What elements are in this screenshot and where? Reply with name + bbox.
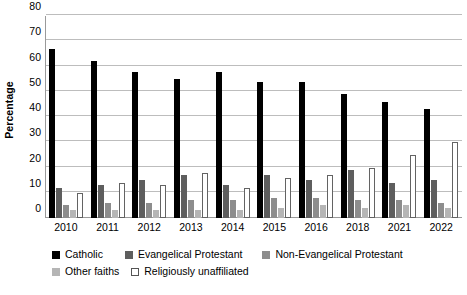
legend-label: Evangelical Protestant [138, 249, 242, 260]
y-axis-tick-label: 10 [3, 178, 41, 188]
bar[interactable] [230, 200, 236, 218]
bar[interactable] [244, 188, 250, 218]
bar[interactable] [341, 94, 347, 218]
legend-item[interactable]: Other faiths [52, 266, 119, 277]
legend-item[interactable]: Religiously unaffiliated [131, 266, 248, 277]
bar-group [128, 16, 170, 218]
legend-label: Religiously unaffiliated [144, 266, 248, 277]
x-axis-tick-label: 2016 [295, 220, 337, 236]
bar[interactable] [306, 180, 312, 218]
x-axis-tick-label: 2010 [45, 220, 87, 236]
y-axis-tick-label: 80 [3, 1, 41, 11]
bar-group [170, 16, 212, 218]
bars-layer [45, 16, 462, 218]
bar[interactable] [63, 205, 69, 218]
bar[interactable] [195, 210, 201, 218]
y-axis-tick-label: 40 [3, 102, 41, 112]
bar[interactable] [313, 198, 319, 218]
legend-label: Non-Evangelical Protestant [275, 249, 402, 260]
bar[interactable] [403, 205, 409, 218]
y-axis-tick-label: 60 [3, 52, 41, 62]
bar[interactable] [237, 210, 243, 218]
bar[interactable] [355, 200, 361, 218]
bar[interactable] [105, 203, 111, 218]
bar-group [45, 16, 87, 218]
legend-item[interactable]: Evangelical Protestant [125, 249, 242, 260]
bar[interactable] [257, 82, 263, 218]
x-axis-tick-label: 2022 [420, 220, 462, 236]
bar[interactable] [424, 109, 430, 218]
bar[interactable] [139, 180, 145, 218]
bar[interactable] [348, 170, 354, 218]
bar[interactable] [271, 198, 277, 218]
bar-group [337, 16, 379, 218]
x-axis-tick-label: 2013 [170, 220, 212, 236]
bar[interactable] [320, 205, 326, 218]
bar[interactable] [91, 61, 97, 218]
legend-swatch-icon [131, 268, 139, 276]
legend-swatch-icon [125, 251, 133, 259]
x-axis-ticks: 2010201120122013201420152016201820212022 [45, 220, 462, 236]
gridline [46, 14, 462, 15]
bar[interactable] [98, 185, 104, 218]
bar[interactable] [146, 203, 152, 218]
bar-group [295, 16, 337, 218]
bar[interactable] [112, 210, 118, 218]
bar[interactable] [56, 188, 62, 218]
bar[interactable] [174, 79, 180, 218]
y-axis-tick-label: 30 [3, 127, 41, 137]
x-axis-tick-label: 2018 [337, 220, 379, 236]
bar[interactable] [285, 178, 291, 218]
bar[interactable] [153, 210, 159, 218]
bar[interactable] [223, 185, 229, 218]
legend-item[interactable]: Non-Evangelical Protestant [262, 249, 402, 260]
bar[interactable] [216, 72, 222, 218]
bar[interactable] [362, 208, 368, 218]
bar[interactable] [452, 142, 458, 218]
legend-label: Other faiths [65, 266, 119, 277]
legend-row: CatholicEvangelical ProtestantNon-Evange… [52, 246, 452, 263]
bar[interactable] [264, 175, 270, 218]
bar[interactable] [299, 82, 305, 218]
bar-group [379, 16, 421, 218]
bar[interactable] [389, 183, 395, 218]
bar[interactable] [445, 208, 451, 218]
legend-swatch-icon [52, 268, 60, 276]
bar-group [212, 16, 254, 218]
bar[interactable] [77, 193, 83, 218]
bar-group [420, 16, 462, 218]
bar[interactable] [160, 185, 166, 218]
chart-legend: CatholicEvangelical ProtestantNon-Evange… [52, 246, 452, 280]
legend-label: Catholic [65, 249, 103, 260]
x-axis-tick-label: 2021 [379, 220, 421, 236]
bar-group [87, 16, 129, 218]
legend-swatch-icon [52, 251, 60, 259]
bar[interactable] [410, 155, 416, 218]
bar[interactable] [132, 72, 138, 218]
legend-item[interactable]: Catholic [52, 249, 103, 260]
legend-row: Other faithsReligiously unaffiliated [52, 263, 452, 280]
y-axis-ticks: 01020304050607080 [0, 16, 41, 218]
x-axis-tick-label: 2012 [128, 220, 170, 236]
y-axis-tick-label: 70 [3, 26, 41, 36]
bar[interactable] [181, 175, 187, 218]
bar[interactable] [49, 49, 55, 218]
bar[interactable] [431, 180, 437, 218]
y-axis-tick-label: 20 [3, 153, 41, 163]
x-axis-tick-label: 2011 [87, 220, 129, 236]
y-axis-tick-label: 50 [3, 77, 41, 87]
bar-group [254, 16, 296, 218]
bar[interactable] [327, 175, 333, 218]
y-axis-tick-label: 0 [3, 203, 41, 213]
bar[interactable] [396, 200, 402, 218]
bar[interactable] [119, 183, 125, 218]
bar[interactable] [188, 200, 194, 218]
bar[interactable] [438, 203, 444, 218]
bar-chart: Percentage 01020304050607080 20102011201… [0, 0, 467, 295]
bar[interactable] [278, 208, 284, 218]
bar[interactable] [202, 173, 208, 218]
bar[interactable] [382, 102, 388, 218]
x-axis-tick-label: 2015 [254, 220, 296, 236]
bar[interactable] [369, 168, 375, 219]
bar[interactable] [70, 210, 76, 218]
